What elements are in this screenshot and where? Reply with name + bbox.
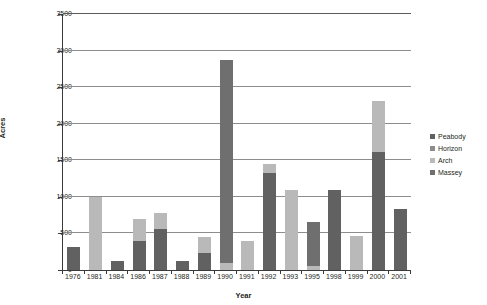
legend-label: Peabody (438, 133, 466, 141)
x-tick-label: 1991 (236, 273, 258, 281)
legend-label: Massey (438, 169, 462, 177)
legend-label: Arch (438, 157, 452, 165)
bar-segment (350, 236, 363, 270)
bar-chart: Acres 0500100015002000250030003500 19761… (0, 0, 487, 305)
x-tick-label: 2001 (388, 273, 410, 281)
bar-segment (241, 241, 254, 270)
bar-segment (372, 152, 385, 270)
gridline (63, 196, 411, 197)
plot-area (62, 14, 411, 271)
x-tick-label: 1992 (258, 273, 280, 281)
gridline (63, 159, 411, 160)
x-tick-mark (410, 270, 411, 274)
x-tick-label: 1993 (280, 273, 302, 281)
bar-segment (176, 261, 189, 271)
bar-segment (133, 241, 146, 270)
bar-segment (154, 229, 167, 270)
legend-label: Horizon (438, 145, 462, 153)
legend-swatch-icon (430, 170, 435, 175)
x-tick-label: 1986 (127, 273, 149, 281)
x-tick-label: 1984 (106, 273, 128, 281)
legend-item: Arch (430, 155, 466, 166)
legend-swatch-icon (430, 134, 435, 139)
bar-segment (263, 173, 276, 270)
gridline (63, 123, 411, 124)
x-tick-label: 1976 (62, 273, 84, 281)
x-tick-label: 1981 (84, 273, 106, 281)
bar-segment (394, 209, 407, 270)
gridline (63, 13, 411, 14)
bar-segment (198, 253, 211, 270)
x-axis-title: Year (0, 291, 487, 300)
y-axis-title: Acres (0, 118, 7, 139)
legend-swatch-icon (430, 146, 435, 151)
legend: PeabodyHorizonArchMassey (430, 131, 466, 179)
bar-segment (67, 247, 80, 270)
bar-segment (307, 222, 320, 267)
bar-segment (263, 164, 276, 174)
bar-segment (220, 263, 233, 270)
gridline (63, 232, 411, 233)
x-tick-label: 1999 (345, 273, 367, 281)
bar-segment (307, 266, 320, 270)
x-tick-label: 1998 (323, 273, 345, 281)
legend-item: Peabody (430, 131, 466, 142)
gridline (63, 86, 411, 87)
legend-item: Massey (430, 167, 466, 178)
bar-segment (328, 190, 341, 270)
x-tick-label: 2000 (367, 273, 389, 281)
legend-swatch-icon (430, 158, 435, 163)
x-tick-label: 1989 (193, 273, 215, 281)
bar-segment (133, 219, 146, 241)
x-tick-label: 1990 (214, 273, 236, 281)
bar-segment (372, 101, 385, 151)
bar-segment (154, 213, 167, 229)
gridline (63, 50, 411, 51)
bar-segment (220, 60, 233, 263)
x-tick-label: 1995 (301, 273, 323, 281)
bar-segment (198, 237, 211, 253)
bar-segment (89, 197, 102, 270)
legend-item: Horizon (430, 143, 466, 154)
bar-segment (111, 261, 124, 271)
x-tick-label: 1988 (171, 273, 193, 281)
x-tick-label: 1987 (149, 273, 171, 281)
bar-segment (285, 190, 298, 270)
